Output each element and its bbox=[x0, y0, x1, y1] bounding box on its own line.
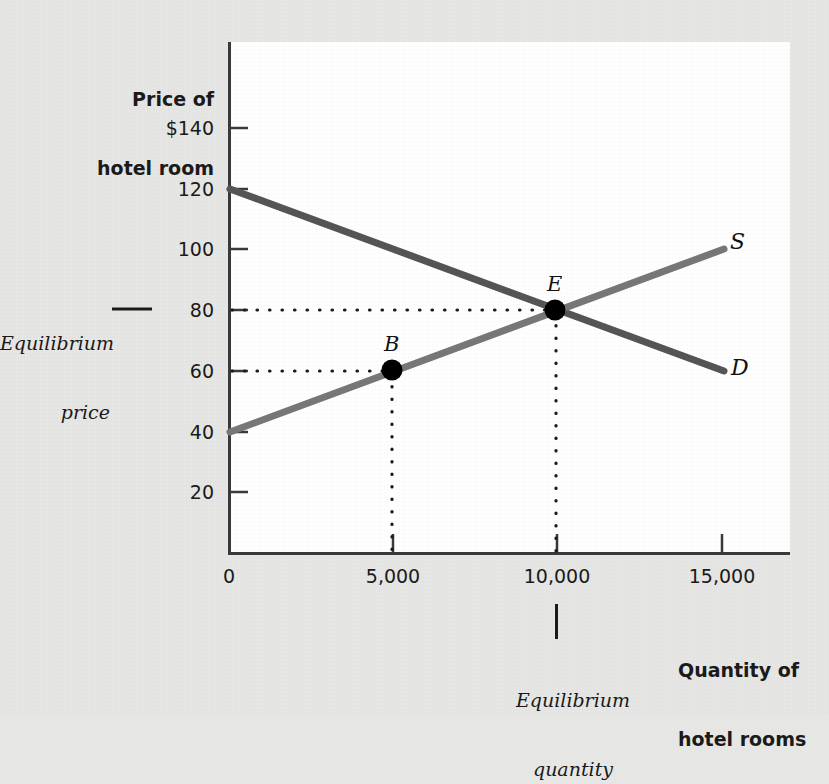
x-tick-label-15000: 15,000 bbox=[657, 565, 787, 587]
equilibrium-quantity-line2: quantity bbox=[478, 758, 668, 781]
y-axis-title-line1: Price of bbox=[22, 88, 214, 111]
supply-curve-label: S bbox=[730, 229, 745, 254]
demand-curve-label: D bbox=[731, 355, 749, 380]
equilibrium-quantity-annotation: Equilibrium quantity bbox=[478, 643, 668, 784]
point-marker-b bbox=[382, 360, 403, 381]
y-tick-label-80: 80 bbox=[118, 299, 214, 321]
y-tick-label-100: 100 bbox=[118, 238, 214, 260]
x-tick-label-10000: 10,000 bbox=[492, 565, 622, 587]
y-tick-label-60: 60 bbox=[118, 360, 214, 382]
equilibrium-quantity-line1: Equilibrium bbox=[478, 689, 668, 712]
x-axis-title: Quantity of hotel rooms bbox=[678, 613, 828, 784]
equilibrium-price-line2: price bbox=[0, 401, 110, 424]
y-tick-label-140: $140 bbox=[118, 117, 214, 139]
equilibrium-price-annotation: Equilibrium price bbox=[0, 286, 110, 470]
x-axis-title-line1: Quantity of bbox=[678, 659, 828, 682]
x-axis-title-line2: hotel rooms bbox=[678, 728, 828, 751]
point-marker-e bbox=[545, 300, 566, 321]
point-b-label: B bbox=[384, 332, 399, 356]
point-e-label: E bbox=[547, 272, 562, 296]
x-tick-label-5000: 5,000 bbox=[333, 565, 453, 587]
y-axis-title-line2: hotel room bbox=[22, 157, 214, 180]
y-tick-label-120: 120 bbox=[118, 178, 214, 200]
y-tick-label-20: 20 bbox=[118, 481, 214, 503]
x-tick-label-0: 0 bbox=[199, 565, 259, 587]
equilibrium-price-line1: Equilibrium bbox=[0, 332, 110, 355]
y-tick-label-40: 40 bbox=[118, 421, 214, 443]
